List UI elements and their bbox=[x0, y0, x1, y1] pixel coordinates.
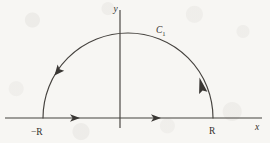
point-R-label: R bbox=[209, 126, 216, 136]
contour-diagram: y x C1 −R R bbox=[0, 0, 270, 143]
point-minus-R-label: −R bbox=[31, 127, 43, 137]
contour-label-subscript: 1 bbox=[162, 30, 165, 37]
figure-canvas: y x C1 −R R bbox=[0, 0, 270, 143]
contour-label: C1 bbox=[156, 25, 166, 37]
semicircle-arc bbox=[43, 33, 213, 118]
arc-arrow-left-icon bbox=[55, 65, 65, 76]
y-axis-label: y bbox=[113, 4, 119, 14]
x-axis-label: x bbox=[254, 122, 260, 132]
